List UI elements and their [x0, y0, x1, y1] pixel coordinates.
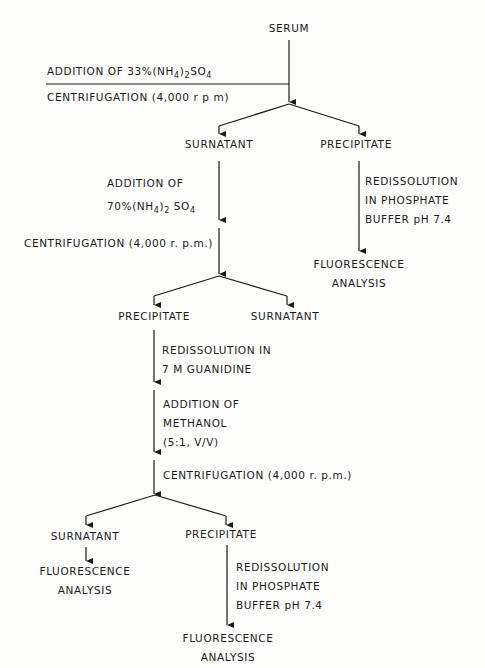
step-text-line: BUFFER pH 7.4: [236, 596, 329, 615]
flowchart-diagram: SERUM ADDITION OF 33%(NH4)2SO4 CENTRIFUG…: [0, 0, 485, 668]
step-text-line: REDISSOLUTION IN: [162, 341, 271, 360]
node-surnatant-3: SURNATANT: [51, 527, 119, 546]
step-text-line: REDISSOLUTION: [236, 558, 329, 577]
node-text-line: ANALYSIS: [314, 274, 405, 293]
step-formula-line: 70%(NH4)2 SO4: [107, 197, 196, 216]
step-redissolution-phosphate-buffer-2: REDISSOLUTION IN PHOSPHATE BUFFER pH 7.4: [236, 558, 329, 615]
step-addition-methanol: ADDITION OF METHANOL (5:1, V/V): [163, 395, 239, 452]
node-text-line: ANALYSIS: [183, 648, 274, 667]
node-precipitate-3: PRECIPITATE: [185, 525, 257, 544]
step-text: SO: [190, 65, 206, 77]
node-precipitate-2: PRECIPITATE: [118, 307, 190, 326]
node-precipitate-1: PRECIPITATE: [320, 135, 392, 154]
step-text-line: ADDITION OF: [163, 395, 239, 414]
subscript: 4: [190, 206, 196, 215]
step-redissolution-phosphate-buffer-1: REDISSOLUTION IN PHOSPHATE BUFFER pH 7.4: [365, 172, 458, 229]
node-fluorescence-analysis-1: FLUORESCENCE ANALYSIS: [314, 255, 405, 293]
step-text-line: BUFFER pH 7.4: [365, 210, 458, 229]
step-text-line: ADDITION OF: [107, 174, 196, 193]
step-centrifugation-2: CENTRIFUGATION (4,000 r. p.m.): [24, 234, 213, 253]
node-fluorescence-analysis-3: FLUORESCENCE ANALYSIS: [183, 629, 274, 667]
step-text-line: IN PHOSPHATE: [365, 191, 458, 210]
node-serum: SERUM: [269, 19, 309, 38]
step-text-line: IN PHOSPHATE: [236, 577, 329, 596]
step-text-line: 7 M GUANIDINE: [162, 360, 271, 379]
node-surnatant-1: SURNATANT: [185, 135, 253, 154]
step-centrifugation-1: CENTRIFUGATION (4,000 r p m): [47, 88, 229, 107]
node-text-line: FLUORESCENCE: [183, 629, 274, 648]
step-text-line: (5:1, V/V): [163, 433, 239, 452]
step-addition-70-percent-ammonium-sulfate: ADDITION OF 70%(NH4)2 SO4: [107, 174, 196, 216]
node-text-line: FLUORESCENCE: [314, 255, 405, 274]
step-text-line: REDISSOLUTION: [365, 172, 458, 191]
step-text: ADDITION OF 33%(NH: [47, 65, 174, 77]
subscript: 4: [206, 71, 212, 80]
step-redissolution-guanidine: REDISSOLUTION IN 7 M GUANIDINE: [162, 341, 271, 379]
step-text: 70%(NH: [107, 200, 154, 212]
node-text-line: ANALYSIS: [40, 581, 131, 600]
node-fluorescence-analysis-2: FLUORESCENCE ANALYSIS: [40, 562, 131, 600]
step-text-line: METHANOL: [163, 414, 239, 433]
step-centrifugation-3: CENTRIFUGATION (4,000 r. p.m.): [163, 466, 352, 485]
node-text-line: FLUORESCENCE: [40, 562, 131, 581]
node-surnatant-2: SURNATANT: [251, 307, 319, 326]
step-text: SO: [170, 200, 190, 212]
step-addition-33-percent-ammonium-sulfate: ADDITION OF 33%(NH4)2SO4: [47, 62, 212, 81]
